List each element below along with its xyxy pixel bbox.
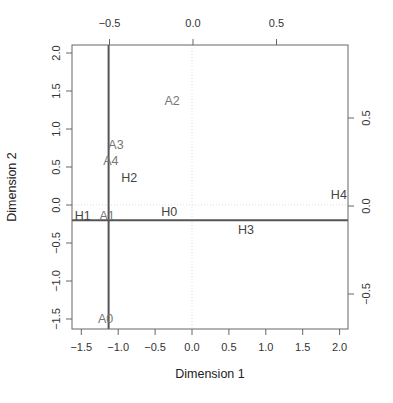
y-axis-right: −0.50.00.5 <box>348 110 372 305</box>
y-tick-label: −1.0 <box>50 270 62 292</box>
point-label-a2: A2 <box>164 94 179 108</box>
point-label-a3: A3 <box>108 138 123 152</box>
x-axis-top: −0.50.00.5 <box>99 17 285 45</box>
y-tick-label: 2.0 <box>50 45 62 60</box>
y-tick-label: −1.5 <box>50 308 62 330</box>
reference-lines <box>72 45 348 329</box>
biplot-chart: −1.5−1.0−0.50.00.51.01.52.0 −1.5−1.0−0.5… <box>0 0 393 403</box>
y-tick-label: 0.5 <box>50 159 62 174</box>
right-y-tick-label: 0.0 <box>360 198 372 213</box>
x-tick-label: 1.5 <box>295 341 310 353</box>
point-label-a4: A4 <box>103 154 118 168</box>
point-label-h3: H3 <box>238 223 254 237</box>
point-label-h4: H4 <box>331 188 347 202</box>
point-label-h0: H0 <box>161 205 177 219</box>
x-tick-label: 0.0 <box>184 341 199 353</box>
point-label-h1: H1 <box>75 209 91 223</box>
x-tick-label: 0.5 <box>221 341 236 353</box>
x-tick-label: −1.5 <box>70 341 92 353</box>
x-tick-label: −1.0 <box>107 341 129 353</box>
top-x-tick-label: 0.5 <box>269 17 284 29</box>
x-axis-title: Dimension 1 <box>175 367 245 381</box>
top-x-tick-label: 0.0 <box>185 17 200 29</box>
y-tick-label: 1.0 <box>50 121 62 136</box>
right-y-tick-label: −0.5 <box>360 283 372 305</box>
x-tick-label: −0.5 <box>144 341 166 353</box>
point-label-h2: H2 <box>121 171 137 185</box>
x-tick-label: 1.0 <box>258 341 273 353</box>
y-axis-left: −1.5−1.0−0.50.00.51.01.52.0 <box>50 45 72 330</box>
point-label-a1: A1 <box>99 209 114 223</box>
y-axis-title: Dimension 2 <box>5 152 19 222</box>
y-tick-label: 0.0 <box>50 197 62 212</box>
top-x-tick-label: −0.5 <box>99 17 121 29</box>
chart-canvas: −1.5−1.0−0.50.00.51.01.52.0 −1.5−1.0−0.5… <box>0 0 393 403</box>
x-tick-label: 2.0 <box>332 341 347 353</box>
plot-frame <box>72 45 348 329</box>
point-label-a0: A0 <box>98 312 113 326</box>
y-tick-label: 1.5 <box>50 83 62 98</box>
y-tick-label: −0.5 <box>50 232 62 254</box>
right-y-tick-label: 0.5 <box>360 110 372 125</box>
x-axis-bottom: −1.5−1.0−0.50.00.51.01.52.0 <box>70 329 347 353</box>
point-labels: A0A1A2A3A4H0H1H2H3H4 <box>75 94 347 325</box>
